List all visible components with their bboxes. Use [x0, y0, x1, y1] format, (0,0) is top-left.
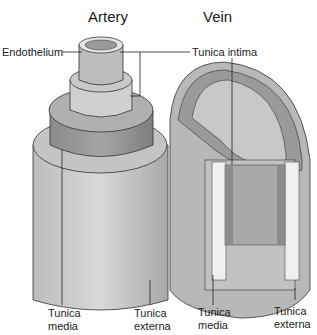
label-vein-tunica-externa: Tunicaexterna: [274, 305, 311, 331]
label-vein-tunica-media: Tunicamedia: [198, 306, 231, 332]
vein-drawing: [170, 62, 310, 318]
vein-title: Vein: [203, 8, 232, 25]
artery-title: Artery: [88, 8, 128, 25]
label-tunica-intima: Tunica intima: [192, 46, 257, 59]
label-artery-tunica-media: Tunicamedia: [48, 307, 81, 333]
label-endothelium: Endothelium: [2, 46, 63, 59]
artery-drawing: [33, 37, 168, 310]
label-artery-tunica-externa: Tunicaexterna: [134, 307, 171, 333]
